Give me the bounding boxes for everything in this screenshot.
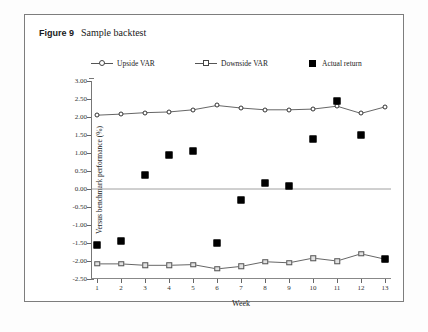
data-point-upside-var	[287, 107, 292, 112]
x-tick-mark	[97, 279, 98, 283]
x-tick-mark	[265, 279, 266, 283]
x-tick-mark	[361, 279, 362, 283]
data-point-downside-var	[238, 264, 244, 270]
legend-label-downside-var: Downside VAR	[221, 59, 268, 68]
x-tick-mark	[241, 279, 242, 283]
data-point-actual-return	[238, 196, 245, 203]
data-point-upside-var	[143, 110, 148, 115]
data-point-upside-var	[383, 104, 388, 109]
x-tick-mark	[193, 279, 194, 283]
x-tick-label: 2	[119, 284, 123, 292]
x-tick-mark	[289, 279, 290, 283]
x-tick-label: 3	[143, 284, 147, 292]
data-point-upside-var	[191, 107, 196, 112]
data-point-downside-var	[166, 263, 172, 269]
data-point-actual-return	[382, 256, 389, 263]
y-tick-label: -1.00	[72, 221, 87, 229]
x-tick-mark	[313, 279, 314, 283]
data-point-upside-var	[119, 112, 124, 117]
legend-item-downside-var[interactable]: Downside VAR	[195, 57, 268, 69]
data-point-upside-var	[95, 113, 100, 118]
x-tick-mark	[145, 279, 146, 283]
data-point-actual-return	[358, 132, 365, 139]
figure-page: Figure 9Sample backtest Upside VAR Downs…	[0, 0, 428, 332]
x-tick-label: 12	[358, 284, 365, 292]
data-point-downside-var	[286, 260, 292, 266]
data-point-actual-return	[262, 179, 269, 186]
x-tick-mark	[217, 279, 218, 283]
plot-area: Versus benchmark performance (%) Week 3.…	[91, 81, 391, 279]
data-point-upside-var	[263, 107, 268, 112]
x-tick-label: 13	[382, 284, 389, 292]
y-tick-label: -1.50	[72, 239, 87, 247]
data-point-downside-var	[310, 255, 316, 261]
data-point-upside-var	[311, 107, 316, 112]
y-tick-label: 0.00	[75, 185, 87, 193]
x-tick-label: 9	[287, 284, 291, 292]
legend-label-actual-return: Actual return	[322, 59, 362, 68]
data-point-actual-return	[166, 151, 173, 158]
data-point-upside-var	[359, 111, 364, 116]
y-tick-label: -2.50	[72, 275, 87, 283]
series-lines	[91, 81, 391, 279]
y-tick-label: 0.50	[75, 167, 87, 175]
data-point-downside-var	[214, 266, 220, 272]
data-point-downside-var	[358, 251, 364, 257]
figure-title: Figure 9Sample backtest	[39, 27, 146, 38]
data-point-upside-var	[239, 106, 244, 111]
y-tick-label: -0.50	[72, 203, 87, 211]
y-tick-label: 3.00	[75, 77, 87, 85]
legend-label-upside-var: Upside VAR	[117, 59, 155, 68]
y-tick-label: 1.50	[75, 131, 87, 139]
y-axis-top-cap	[89, 78, 94, 79]
data-point-actual-return	[94, 241, 101, 248]
figure-number: Figure 9	[39, 28, 74, 38]
open-square-marker-icon	[195, 59, 217, 68]
data-point-actual-return	[118, 238, 125, 245]
y-tick-label: 2.00	[75, 113, 87, 121]
x-tick-mark	[337, 279, 338, 283]
data-point-downside-var	[262, 259, 268, 265]
data-point-downside-var	[142, 263, 148, 269]
x-tick-label: 8	[263, 284, 267, 292]
chart-legend: Upside VAR Downside VAR Actual return	[91, 57, 391, 69]
x-tick-label: 10	[310, 284, 317, 292]
data-point-upside-var	[335, 104, 340, 109]
x-tick-label: 4	[167, 284, 171, 292]
y-tick-label: 1.00	[75, 149, 87, 157]
x-axis-title: Week	[232, 299, 250, 308]
x-tick-label: 6	[215, 284, 219, 292]
data-point-actual-return	[214, 240, 221, 247]
y-tick-label: -2.00	[72, 257, 87, 265]
data-point-downside-var	[190, 262, 196, 268]
legend-item-actual-return[interactable]: Actual return	[309, 57, 362, 69]
x-tick-mark	[121, 279, 122, 283]
data-point-actual-return	[286, 183, 293, 190]
open-circle-marker-icon	[91, 59, 113, 68]
legend-item-upside-var[interactable]: Upside VAR	[91, 57, 155, 69]
data-point-upside-var	[215, 103, 220, 108]
data-point-actual-return	[142, 171, 149, 178]
x-tick-mark	[169, 279, 170, 283]
x-tick-label: 7	[239, 284, 243, 292]
data-point-actual-return	[310, 135, 317, 142]
data-point-downside-var	[334, 258, 340, 264]
x-tick-label: 1	[95, 284, 99, 292]
x-tick-label: 11	[334, 284, 341, 292]
figure-caption: Sample backtest	[81, 27, 146, 38]
filled-square-marker-icon	[309, 60, 316, 67]
x-tick-label: 5	[191, 284, 195, 292]
data-point-actual-return	[190, 148, 197, 155]
x-tick-mark	[385, 279, 386, 283]
y-tick-label: 2.50	[75, 95, 87, 103]
data-point-downside-var	[94, 261, 100, 267]
figure-frame: Figure 9Sample backtest Upside VAR Downs…	[24, 14, 404, 302]
y-tick-mark	[87, 279, 91, 280]
data-point-actual-return	[334, 97, 341, 104]
data-point-downside-var	[118, 261, 124, 267]
data-point-upside-var	[167, 109, 172, 114]
